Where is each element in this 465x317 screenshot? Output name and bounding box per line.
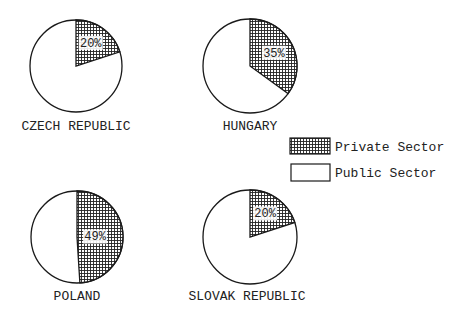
private-swatch [290,138,330,154]
percent-label: 35% [263,47,285,61]
percent-label: 20% [80,37,102,51]
pie-chart-grid: 20%CZECH REPUBLIC35%HUNGARY49%POLAND20%S… [0,0,465,317]
legend-item-public: Public Sector [291,164,436,181]
legend: Private Sector Public Sector [290,138,444,181]
pie-czech-republic: 20%CZECH REPUBLIC [21,20,130,134]
legend-item-private: Private Sector [290,138,444,155]
pie-slovak-republic: 20%SLOVAK REPUBLIC [188,190,305,304]
percent-label: 20% [254,207,276,221]
pie-poland: 49%POLAND [31,191,123,304]
legend-label-public: Public Sector [335,166,436,181]
legend-label-private: Private Sector [335,140,444,155]
public-swatch [291,164,330,181]
country-label: HUNGARY [223,119,278,134]
country-label: CZECH REPUBLIC [21,119,130,134]
country-label: SLOVAK REPUBLIC [188,289,305,304]
country-label: POLAND [54,289,101,304]
percent-label: 49% [84,230,106,244]
pie-hungary: 35%HUNGARY [203,19,297,134]
